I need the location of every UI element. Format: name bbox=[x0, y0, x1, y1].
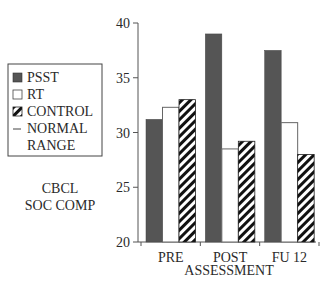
bar-rt-post bbox=[222, 149, 239, 242]
legend-swatch-open bbox=[13, 90, 22, 99]
legend-swatch-hatched bbox=[13, 107, 22, 116]
y-axis-title-line-2: SOC COMP bbox=[25, 198, 96, 213]
bar-control-pre bbox=[179, 100, 196, 242]
legend-item: NORMAL bbox=[13, 121, 88, 136]
legend-label: PSST bbox=[27, 70, 59, 85]
y-tick-label: 30 bbox=[116, 126, 130, 141]
y-tick-label: 20 bbox=[116, 235, 130, 250]
bar-psst-pre bbox=[146, 119, 163, 242]
y-tick-label: 40 bbox=[116, 16, 130, 31]
bar-psst-fu12 bbox=[265, 50, 282, 242]
y-tick-label: 25 bbox=[116, 180, 130, 195]
y-axis-title-line-1: CBCL bbox=[42, 181, 79, 196]
bar-control-fu12 bbox=[298, 154, 315, 242]
bar-control-post bbox=[238, 141, 255, 242]
bar-psst-post bbox=[205, 34, 222, 242]
legend-item: RT bbox=[13, 87, 44, 102]
legend-item: CONTROL bbox=[13, 104, 93, 119]
legend-item: RANGE bbox=[27, 138, 75, 153]
bar-chart: PSSTRTCONTROLNORMALRANGE CBCL SOC COMP 2… bbox=[0, 0, 328, 294]
bar-rt-pre bbox=[163, 107, 180, 242]
x-axis-title: ASSESSMENT bbox=[184, 263, 274, 278]
x-category-label: FU 12 bbox=[272, 250, 307, 265]
legend-label: CONTROL bbox=[27, 104, 93, 119]
bar-rt-fu12 bbox=[281, 123, 298, 242]
legend-swatch-solid bbox=[13, 73, 22, 82]
legend-label: NORMAL bbox=[27, 121, 88, 136]
legend: PSSTRTCONTROLNORMALRANGE bbox=[8, 64, 102, 156]
legend-label: RT bbox=[27, 87, 44, 102]
x-category-label: PRE bbox=[158, 250, 184, 265]
legend-label: RANGE bbox=[27, 138, 75, 153]
y-tick-label: 35 bbox=[116, 71, 130, 86]
legend-item: PSST bbox=[13, 70, 59, 85]
